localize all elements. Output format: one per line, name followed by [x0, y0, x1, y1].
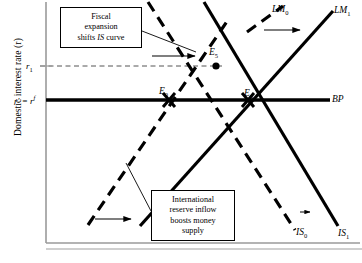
callout-box-fiscal-expansion: Fiscal expansion shifts IS curve: [60, 7, 142, 48]
curve-label-lm0: LM0: [272, 4, 288, 16]
callout-reserve-line3: boosts money: [155, 216, 231, 226]
equilibrium-label-e6: E6: [244, 88, 253, 100]
callout-reserve-line4: supply: [155, 226, 231, 236]
callout-box-reserve-inflow: International reserve inflow boosts mone…: [151, 190, 235, 241]
callout-leader-reserve: [126, 163, 151, 211]
curve-label-bp: BP: [332, 94, 344, 104]
callout-reserve-line2: reserve inflow: [155, 205, 231, 215]
callout-fiscal-line2: expansion: [64, 22, 138, 32]
y-tick-label-rf: r′ = rf: [14, 94, 35, 106]
callout-fiscal-line3-post: curve: [104, 33, 124, 42]
callout-fiscal-line3-pre: shifts: [78, 33, 98, 42]
callout-fiscal-line1: Fiscal: [64, 12, 138, 22]
curve-label-is0: IS0: [296, 227, 307, 239]
equilibrium-marker-e5: [212, 62, 219, 69]
y-axis-label: Domestic interest rate (r): [13, 7, 23, 167]
curve-label-lm1: LM1: [334, 5, 350, 17]
y-tick-label-r1: r1: [26, 61, 33, 73]
figure-canvas: Domestic interest rate (r) r1 r′ = rf LM…: [0, 0, 362, 263]
curve-label-is1: IS1: [338, 228, 349, 240]
equilibrium-label-e0: E0: [159, 86, 168, 98]
callout-reserve-line1: International: [155, 195, 231, 205]
callout-fiscal-line3: shifts IS curve: [64, 33, 138, 43]
equilibrium-label-e5: E5: [209, 47, 218, 59]
